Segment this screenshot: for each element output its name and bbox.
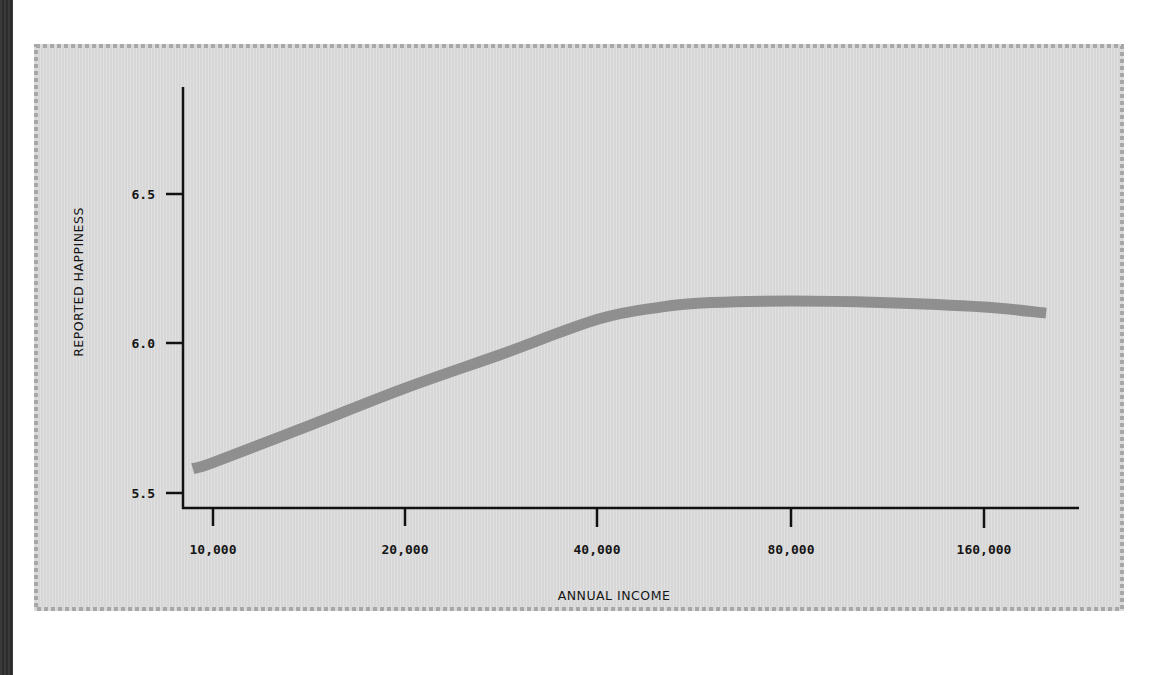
- y-tick-label: 6.0: [132, 336, 156, 351]
- happiness-curve: [193, 301, 1046, 469]
- x-axis-label: ANNUAL INCOME: [558, 588, 671, 603]
- y-axis-label: REPORTED HAPPINESS: [71, 207, 86, 357]
- x-tick-label: 40,000: [574, 542, 621, 557]
- line-chart: 6.5 6.0 5.5 10,000 20,000 40,000 80,000 …: [0, 0, 1149, 675]
- x-tick-label: 160,000: [957, 542, 1012, 557]
- y-tick-label: 5.5: [132, 486, 155, 501]
- x-tick-label: 20,000: [382, 542, 429, 557]
- x-ticks: 10,000 20,000 40,000 80,000 160,000: [190, 508, 1012, 557]
- x-tick-label: 10,000: [190, 542, 237, 557]
- y-ticks: 6.5 6.0 5.5: [132, 187, 183, 501]
- y-tick-label: 6.5: [132, 187, 155, 202]
- x-tick-label: 80,000: [768, 542, 815, 557]
